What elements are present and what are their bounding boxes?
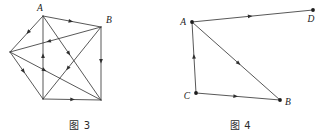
node-label-A: A (36, 3, 43, 13)
node-label-B: B (106, 15, 112, 25)
node-label-B: B (285, 97, 291, 107)
edge-arrowhead-P-A (41, 53, 45, 58)
graph-edge-B-L (10, 27, 101, 52)
graph-edge-A-B (192, 22, 280, 100)
graph-node-B (278, 98, 282, 102)
graph-edge-B-P (43, 27, 101, 99)
node-label-D: D (307, 14, 315, 24)
edge-arrowhead-A-Q (66, 51, 70, 56)
figure-3-graph: AB (0, 0, 160, 115)
figure-3-caption: 图 3 (0, 117, 160, 132)
figure-4-graph: ADCB (160, 0, 321, 115)
graph-node-C (194, 91, 198, 95)
figure-3-panel: AB 图 3 (0, 0, 160, 139)
graph-node-D (311, 8, 315, 12)
node-label-C: C (184, 91, 191, 101)
figure-4-panel: ADCB 图 4 (160, 0, 321, 139)
edge-arrowhead-C-A (192, 54, 196, 59)
graph-edge-L-P (10, 52, 43, 99)
figure-board: AB 图 3 ADCB 图 4 (0, 0, 321, 139)
edge-arrowhead-A-B (68, 19, 73, 23)
graph-edge-A-Q (43, 16, 101, 100)
graph-node-A (190, 20, 194, 24)
graph-edge-L-Q (10, 52, 101, 100)
edge-arrowhead-P-Q (70, 98, 75, 102)
edge-arrowhead-L-P (21, 68, 25, 73)
edge-arrowhead-B-Q (99, 59, 103, 64)
figure-4-caption: 图 4 (160, 117, 321, 132)
edge-arrowhead-B-L (46, 39, 51, 43)
node-label-A: A (179, 17, 186, 27)
